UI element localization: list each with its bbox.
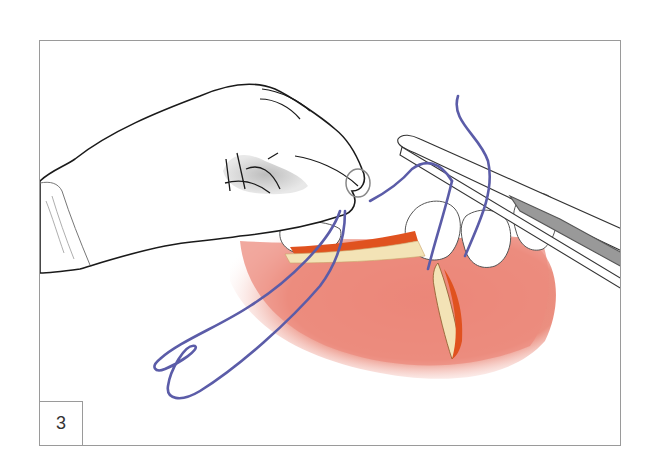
figure-frame: 3 (39, 40, 621, 446)
step-number-label: 3 (39, 401, 83, 446)
suture-illustration (40, 41, 621, 446)
